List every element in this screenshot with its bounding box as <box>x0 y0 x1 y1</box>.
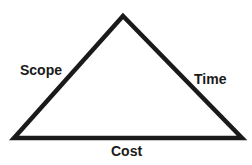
triple-constraint-diagram: Scope Time Cost <box>0 0 252 165</box>
time-label: Time <box>194 72 226 86</box>
cost-label: Cost <box>111 144 142 158</box>
scope-label: Scope <box>20 63 62 77</box>
